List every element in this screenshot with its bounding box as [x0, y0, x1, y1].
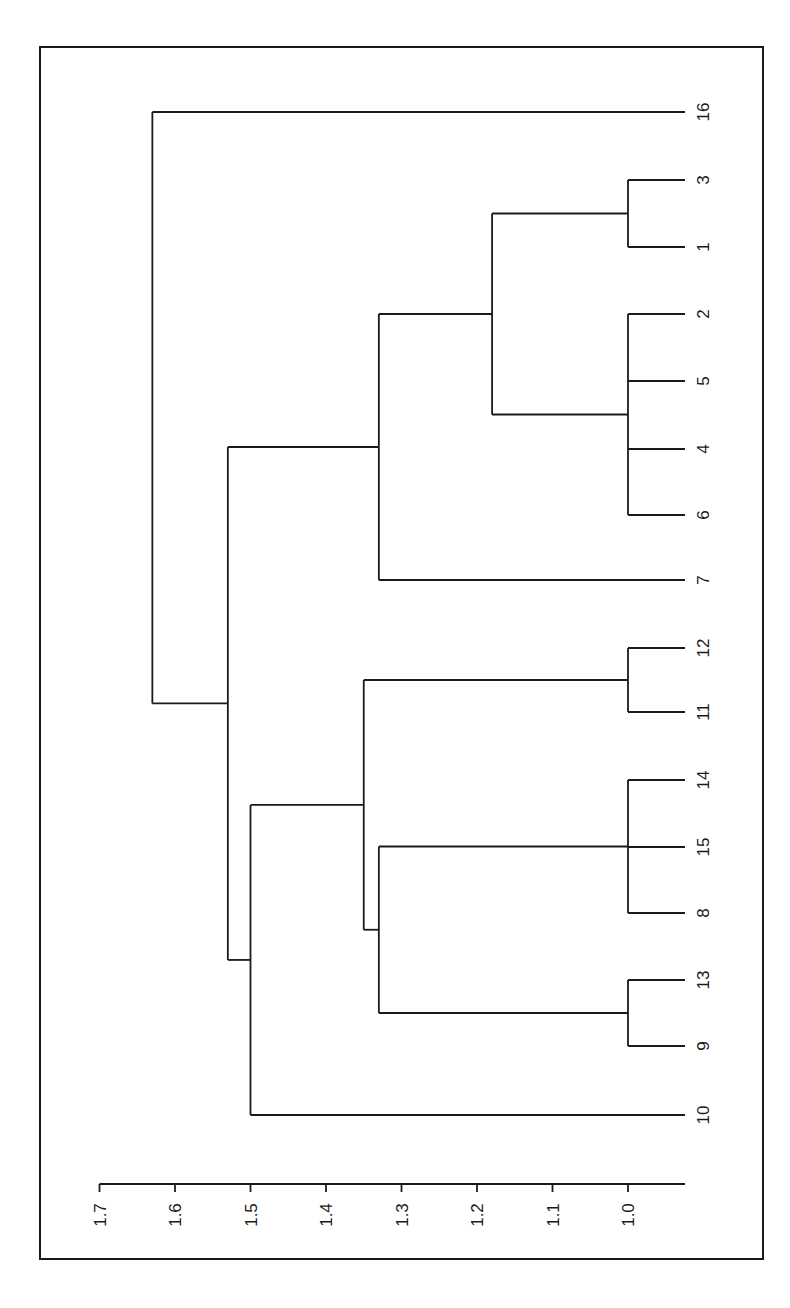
dendrogram-chart: 16312546712111415813910 1.71.61.51.41.31… — [0, 0, 790, 1308]
leaf-label: 1 — [694, 242, 713, 251]
leaf-label: 3 — [694, 175, 713, 184]
tick-label: 1.0 — [619, 1203, 638, 1227]
leaf-label: 15 — [694, 838, 713, 857]
plot-frame — [40, 47, 763, 1259]
tick-label: 1.5 — [242, 1203, 261, 1227]
leaf-label: 12 — [694, 639, 713, 658]
leaf-label: 13 — [694, 971, 713, 990]
tick-label: 1.1 — [544, 1203, 563, 1227]
tick-label: 1.4 — [317, 1203, 336, 1227]
leaf-label: 10 — [694, 1106, 713, 1125]
leaf-labels: 16312546712111415813910 — [694, 103, 713, 1125]
tick-label: 1.3 — [393, 1203, 412, 1227]
leaf-label: 7 — [694, 575, 713, 584]
dendrogram-branches — [152, 112, 685, 1115]
tick-label: 1.7 — [91, 1203, 110, 1227]
leaf-label: 8 — [694, 908, 713, 917]
leaf-label: 16 — [694, 103, 713, 122]
leaf-label: 14 — [694, 771, 713, 790]
leaf-label: 4 — [694, 444, 713, 453]
leaf-label: 2 — [694, 309, 713, 318]
leaf-label: 6 — [694, 510, 713, 519]
leaf-label: 5 — [694, 376, 713, 385]
height-axis: 1.71.61.51.41.31.21.11.0 — [91, 1184, 686, 1227]
leaf-label: 9 — [694, 1041, 713, 1050]
leaf-label: 11 — [694, 703, 713, 721]
tick-label: 1.2 — [468, 1203, 487, 1227]
tick-label: 1.6 — [166, 1203, 185, 1227]
